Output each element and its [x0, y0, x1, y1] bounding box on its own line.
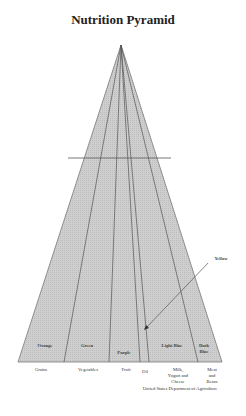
band-label-light-blue: Light Blue: [150, 343, 194, 349]
band-label-dark-blue-line2: Blue: [194, 349, 214, 355]
food-group-fruit: Fruit: [116, 367, 136, 373]
source-credit: United States Department of Agriculture: [128, 386, 232, 392]
food-group-milk-line3: Cheese: [158, 379, 198, 385]
food-group-meat-line3: Beans: [200, 379, 224, 385]
food-group-milk: Milk, Yogurt and Cheese: [158, 367, 198, 385]
food-group-grains: Grains: [28, 367, 54, 373]
food-group-oil: Oil: [138, 369, 152, 375]
band-label-green: Green: [72, 343, 102, 349]
band-label-dark-blue: Dark Blue: [194, 343, 214, 355]
food-group-meat: Meat and Beans: [200, 367, 224, 385]
annotation-yellow: Yellow: [208, 256, 234, 262]
band-label-orange: Orange: [30, 343, 60, 349]
food-group-vegetables: Vegetables: [70, 367, 106, 373]
band-label-purple: Purple: [112, 350, 136, 356]
pyramid-shape: [18, 45, 222, 362]
